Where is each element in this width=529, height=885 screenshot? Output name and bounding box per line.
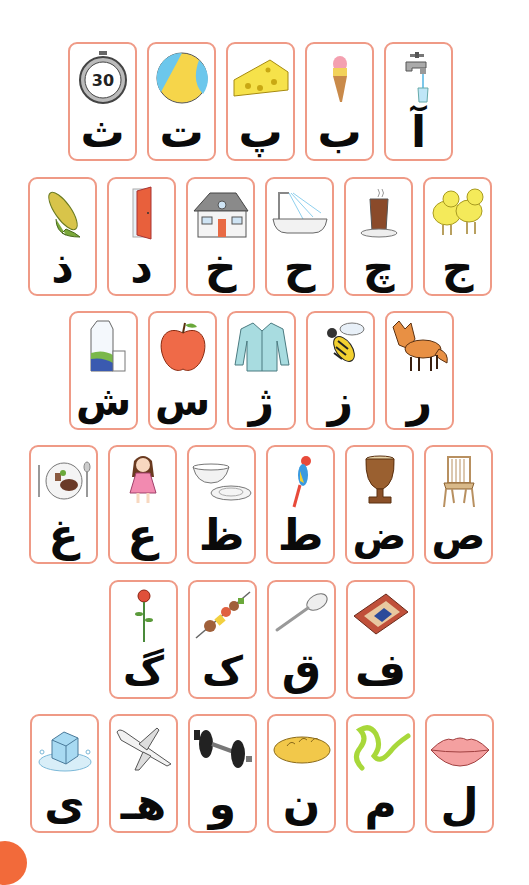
letter-card-gheyn[interactable]: غ: [29, 445, 98, 564]
letter-glyph: ط: [278, 508, 324, 562]
ice-cream-icon: [308, 49, 372, 107]
letter-glyph: ث: [80, 105, 124, 159]
card-row-6: ل م ن و هـ ی: [30, 714, 494, 835]
tea-glass-icon: [347, 184, 411, 242]
letter-card-khe[interactable]: خ: [186, 177, 255, 296]
letter-glyph: ر: [407, 374, 432, 428]
letter-glyph: غ: [48, 508, 78, 562]
spoon-icon: [270, 587, 334, 645]
letter-glyph: ق: [282, 643, 321, 697]
letter-glyph: ذ: [51, 240, 74, 294]
kebab-icon: [191, 587, 255, 645]
letter-card-te[interactable]: ت: [147, 42, 216, 161]
house-icon: [189, 184, 253, 242]
bee-icon: [309, 318, 373, 376]
snake-icon: [349, 721, 413, 779]
beach-ball-icon: [150, 49, 214, 107]
letter-card-zhe[interactable]: ژ: [227, 311, 296, 430]
bathtub-icon: [268, 184, 332, 242]
stopwatch-icon: 30: [71, 49, 135, 107]
cheese-icon: [229, 49, 293, 107]
letter-card-be[interactable]: ب: [305, 42, 374, 161]
corn-icon: [31, 184, 95, 242]
card-row-4: ص ض ط ظ ع غ: [29, 445, 493, 566]
faucet-icon: [387, 49, 451, 107]
letter-card-pe[interactable]: پ: [226, 42, 295, 161]
letter-glyph: خ: [205, 240, 237, 294]
letter-card-ye[interactable]: ی: [30, 714, 99, 833]
letter-card-se[interactable]: 30 ث: [68, 42, 137, 161]
chicks-icon: [426, 184, 490, 242]
letter-card-sin[interactable]: س: [148, 311, 217, 430]
letter-card-za[interactable]: ظ: [187, 445, 256, 564]
letter-glyph: هـ: [121, 777, 167, 831]
letter-glyph: ن: [283, 777, 321, 831]
letter-glyph: آ: [411, 105, 426, 159]
meal-plate-icon: [32, 452, 96, 510]
letter-card-dal[interactable]: د: [107, 177, 176, 296]
letter-card-vav[interactable]: و: [188, 714, 257, 833]
card-row-1: آ ب پ ت 30 ث: [68, 42, 453, 163]
letter-glyph: ل: [440, 777, 478, 831]
letter-glyph: چ: [363, 240, 395, 294]
letter-glyph: ظ: [199, 508, 245, 562]
zarb-drum-icon: [348, 452, 412, 510]
fox-icon: [388, 318, 452, 376]
bread-icon: [270, 721, 334, 779]
parrot-icon: [269, 452, 333, 510]
letter-glyph: م: [364, 777, 396, 831]
stopwatch-number: 30: [91, 71, 113, 90]
letter-card-eyn[interactable]: ع: [108, 445, 177, 564]
letter-glyph: پ: [238, 105, 282, 159]
apple-icon: [151, 318, 215, 376]
milk-carton-icon: [72, 318, 136, 376]
letter-glyph: ج: [442, 240, 474, 294]
letter-card-ze[interactable]: ز: [306, 311, 375, 430]
card-row-2: ج چ ح خ د ذ: [28, 177, 492, 298]
letter-glyph: ف: [355, 643, 406, 697]
rug-icon: [349, 587, 413, 645]
letter-card-zal[interactable]: ذ: [28, 177, 97, 296]
letter-glyph: ک: [202, 643, 243, 697]
letter-glyph: ع: [127, 508, 157, 562]
card-row-5: ف ق ک گ: [109, 580, 415, 701]
letter-glyph: ز: [328, 374, 353, 428]
dumbbell-icon: [191, 721, 255, 779]
chair-icon: [427, 452, 491, 510]
letter-glyph: ژ: [249, 374, 274, 428]
letter-glyph: د: [130, 240, 153, 294]
letter-glyph: ت: [159, 105, 203, 159]
letter-card-nun[interactable]: ن: [267, 714, 336, 833]
letter-glyph: گ: [123, 643, 164, 697]
letter-glyph: ح: [284, 240, 316, 294]
letter-glyph: ی: [44, 777, 84, 831]
letter-card-fe[interactable]: ف: [346, 580, 415, 699]
letter-card-re[interactable]: ر: [385, 311, 454, 430]
letter-card-he-jimi[interactable]: ح: [265, 177, 334, 296]
letter-glyph: و: [209, 777, 236, 831]
letter-card-sad[interactable]: ص: [424, 445, 493, 564]
card-row-3: ر ز ژ س ش: [69, 311, 454, 432]
letter-card-lam[interactable]: ل: [425, 714, 494, 833]
lips-icon: [428, 721, 492, 779]
letter-card-zad[interactable]: ض: [345, 445, 414, 564]
bowl-plate-icon: [190, 452, 254, 510]
letter-card-ta[interactable]: ط: [266, 445, 335, 564]
letter-card-che[interactable]: چ: [344, 177, 413, 296]
letter-card-shin[interactable]: ش: [69, 311, 138, 430]
letter-glyph: ص: [432, 508, 486, 562]
letter-card-he[interactable]: هـ: [109, 714, 178, 833]
rose-icon: [112, 587, 176, 645]
letter-card-jim[interactable]: ج: [423, 177, 492, 296]
letter-glyph: ش: [76, 374, 131, 428]
letter-glyph: س: [155, 374, 210, 428]
letter-card-mim[interactable]: م: [346, 714, 415, 833]
airplane-icon: [112, 721, 176, 779]
letter-card-kaf[interactable]: ک: [188, 580, 257, 699]
letter-card-gaf[interactable]: گ: [109, 580, 178, 699]
letter-card-ghaf[interactable]: ق: [267, 580, 336, 699]
ice-cube-icon: [33, 721, 97, 779]
letter-card-alef-madda[interactable]: آ: [384, 42, 453, 161]
letter-glyph: ض: [353, 508, 407, 562]
letter-glyph: ب: [317, 105, 361, 159]
